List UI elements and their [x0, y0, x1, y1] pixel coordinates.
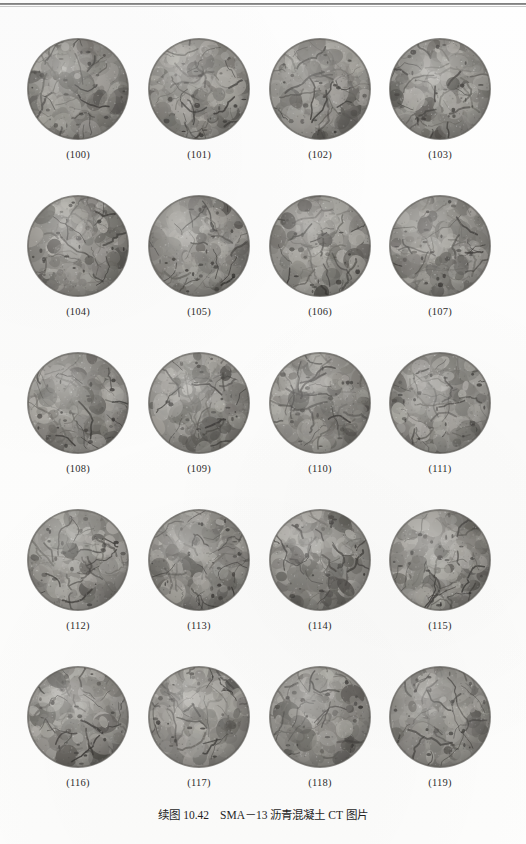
- ct-panel-label: (105): [147, 306, 251, 317]
- ct-panel-label: (110): [268, 463, 372, 474]
- ct-panel[interactable]: (119): [388, 658, 492, 788]
- ct-panel-label: (107): [388, 306, 492, 317]
- ct-panel[interactable]: (114): [268, 501, 372, 631]
- ct-panel-label: (117): [147, 777, 251, 788]
- ct-panel[interactable]: (112): [26, 501, 130, 631]
- ct-scan-image[interactable]: [389, 666, 491, 768]
- ct-panel[interactable]: (105): [147, 187, 251, 317]
- ct-panel-label: (115): [388, 620, 492, 631]
- ct-panel-label: (100): [26, 149, 130, 160]
- ct-scan-image[interactable]: [27, 509, 129, 611]
- ct-panel[interactable]: (107): [388, 187, 492, 317]
- figure-caption-prefix: 续图 10.42: [158, 809, 209, 821]
- ct-image-row: (104) (105) (106) (107): [0, 187, 526, 344]
- ct-scan-image[interactable]: [148, 38, 250, 140]
- page-top-rule-secondary: [0, 6, 526, 7]
- ct-image-row: (108) (109) (110) (111): [0, 344, 526, 501]
- ct-scan-image[interactable]: [148, 509, 250, 611]
- ct-panel[interactable]: (106): [268, 187, 372, 317]
- ct-scan-image[interactable]: [148, 666, 250, 768]
- ct-panel[interactable]: (100): [26, 30, 130, 160]
- scanned-book-page: (100) (101) (102) (103) (104) (105: [0, 0, 526, 844]
- ct-scan-image[interactable]: [269, 38, 371, 140]
- ct-scan-image[interactable]: [27, 666, 129, 768]
- ct-panel[interactable]: (116): [26, 658, 130, 788]
- ct-image-row: (100) (101) (102) (103): [0, 30, 526, 187]
- ct-scan-image[interactable]: [27, 195, 129, 297]
- ct-scan-image[interactable]: [148, 352, 250, 454]
- ct-panel-label: (101): [147, 149, 251, 160]
- ct-panel[interactable]: (104): [26, 187, 130, 317]
- ct-panel-label: (106): [268, 306, 372, 317]
- ct-scan-image[interactable]: [389, 509, 491, 611]
- ct-image-row: (116) (117) (118) (119): [0, 658, 526, 815]
- ct-panel[interactable]: (115): [388, 501, 492, 631]
- figure-caption-body: SMA－13 沥青混凝土 CT 图片: [220, 809, 368, 821]
- ct-scan-image[interactable]: [389, 38, 491, 140]
- ct-panel[interactable]: (111): [388, 344, 492, 474]
- ct-panel-label: (104): [26, 306, 130, 317]
- figure-caption: 续图 10.42SMA－13 沥青混凝土 CT 图片: [0, 806, 526, 822]
- ct-panel-label: (108): [26, 463, 130, 474]
- ct-panel[interactable]: (103): [388, 30, 492, 160]
- ct-panel-label: (119): [388, 777, 492, 788]
- ct-panel-label: (118): [268, 777, 372, 788]
- ct-scan-image[interactable]: [269, 666, 371, 768]
- ct-panel[interactable]: (101): [147, 30, 251, 160]
- ct-scan-image[interactable]: [269, 509, 371, 611]
- ct-panel-label: (102): [268, 149, 372, 160]
- ct-scan-image[interactable]: [269, 195, 371, 297]
- ct-panel[interactable]: (118): [268, 658, 372, 788]
- ct-panel[interactable]: (102): [268, 30, 372, 160]
- ct-scan-image[interactable]: [389, 195, 491, 297]
- ct-panel-label: (109): [147, 463, 251, 474]
- ct-panel-label: (111): [388, 463, 492, 474]
- ct-panel-label: (103): [388, 149, 492, 160]
- ct-scan-image[interactable]: [148, 195, 250, 297]
- ct-scan-image[interactable]: [389, 352, 491, 454]
- ct-image-row: (112) (113) (114) (115): [0, 501, 526, 658]
- ct-panel[interactable]: (113): [147, 501, 251, 631]
- ct-panel[interactable]: (117): [147, 658, 251, 788]
- ct-panel[interactable]: (109): [147, 344, 251, 474]
- ct-scan-image[interactable]: [269, 352, 371, 454]
- ct-panel-label: (114): [268, 620, 372, 631]
- page-top-rule: [0, 3, 526, 5]
- ct-panel-label: (112): [26, 620, 130, 631]
- ct-panel-label: (113): [147, 620, 251, 631]
- ct-panel-label: (116): [26, 777, 130, 788]
- ct-scan-image[interactable]: [27, 38, 129, 140]
- ct-panel[interactable]: (108): [26, 344, 130, 474]
- ct-image-grid: (100) (101) (102) (103) (104) (105: [0, 30, 526, 815]
- ct-scan-image[interactable]: [27, 352, 129, 454]
- ct-panel[interactable]: (110): [268, 344, 372, 474]
